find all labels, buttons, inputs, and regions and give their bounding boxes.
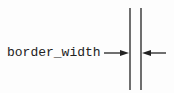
right-arrow-icon bbox=[142, 50, 166, 56]
border-width-diagram: border_width bbox=[0, 0, 174, 93]
left-arrow-icon bbox=[104, 50, 129, 56]
diagram-graphics bbox=[0, 0, 174, 93]
